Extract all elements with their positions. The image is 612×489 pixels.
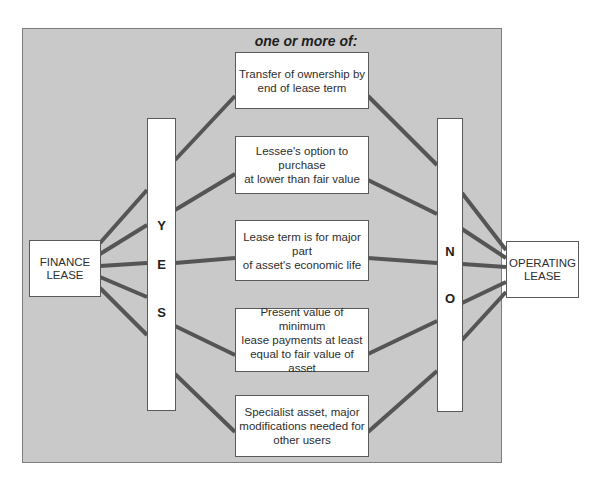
no-letter-o: O [438,291,462,306]
criterion-text-line: Specialist asset, major [244,405,359,419]
criterion-transfer-of-ownership: Transfer of ownership by end of lease te… [235,52,369,109]
yes-letter-s: S [148,305,175,320]
operating-lease-node: OPERATING LEASE [506,241,579,298]
criterion-text-line: Lease term is for major part [236,230,368,258]
yes-letter-y: Y [148,218,175,233]
yes-letter-e: E [148,257,175,272]
diagram-heading: one or more of: [0,33,612,49]
criterion-present-value: Present value of minimum lease payments … [235,308,369,372]
operating-lease-label-line1: OPERATING [509,257,576,270]
criterion-specialist-asset: Specialist asset, major modifications ne… [235,395,369,457]
no-bar: N O [437,118,463,412]
criterion-purchase-option: Lessee's option to purchase at lower tha… [235,136,369,194]
criterion-text-line: at lower than fair value [244,172,360,186]
yes-bar: Y E S [147,118,176,411]
criterion-text-line: other users [273,433,331,447]
finance-lease-label-line1: FINANCE [40,256,90,269]
criterion-text-line: modifications needed for [239,419,364,433]
operating-lease-label-line2: LEASE [524,270,561,283]
criterion-text-line: Lessee's option to purchase [236,144,368,172]
criterion-text-line: lease payments at least [242,333,363,347]
criterion-lease-term: Lease term is for major part of asset's … [235,220,369,281]
criterion-text-line: Present value of minimum [236,305,368,333]
no-letter-n: N [438,244,462,259]
criterion-text-line: of asset's economic life [243,258,362,272]
finance-lease-node: FINANCE LEASE [29,240,101,297]
criterion-text-line: Transfer of ownership by [239,67,365,81]
finance-lease-label-line2: LEASE [46,269,83,282]
criterion-text-line: end of lease term [258,81,347,95]
criterion-text-line: equal to fair value of asset [236,347,368,375]
